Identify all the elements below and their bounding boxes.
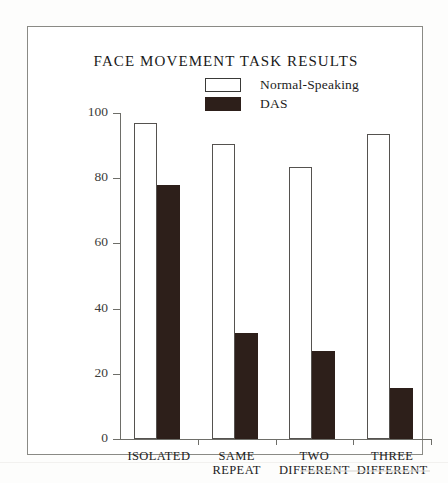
chart-title: FACE MOVEMENT TASK RESULTS	[28, 53, 424, 70]
y-axis-line	[120, 113, 121, 440]
bar-normal-speaking-4	[367, 134, 390, 439]
x-label-2: SAMEREPEAT	[198, 449, 276, 477]
x-label-4: THREEDIFFERENT	[353, 449, 431, 477]
bar-normal-speaking-2	[212, 144, 235, 439]
legend-item-das: DAS	[205, 95, 415, 112]
y-tick-label-60: 60	[95, 234, 109, 250]
y-tick-40: 40	[113, 309, 120, 310]
scanned-page: FACE MOVEMENT TASK RESULTS Normal-Speaki…	[0, 0, 448, 483]
x-label-line1: THREE	[371, 449, 413, 463]
y-tick-label-40: 40	[95, 300, 109, 316]
chart-legend: Normal-Speaking DAS	[205, 76, 415, 114]
legend-swatch-normal-speaking	[205, 78, 241, 92]
bar-das-2	[235, 333, 258, 439]
x-label-1: ISOLATED	[120, 449, 198, 463]
legend-item-normal-speaking: Normal-Speaking	[205, 76, 415, 93]
y-tick-label-100: 100	[88, 104, 108, 120]
x-label-3: TWODIFFERENT	[276, 449, 354, 477]
legend-swatch-das	[205, 97, 241, 111]
scan-artifact	[300, 470, 430, 472]
bar-das-1	[157, 185, 180, 439]
plot-area: MEAN PERCENT CORRECT RESPONSE 0204060801…	[120, 113, 431, 439]
x-label-line1: SAME	[218, 449, 254, 463]
y-tick-label-0: 0	[101, 430, 108, 446]
bar-das-3	[312, 351, 335, 439]
x-tick-1	[198, 439, 199, 445]
x-tick-2	[276, 439, 277, 445]
y-tick-0: 0	[113, 439, 120, 440]
y-tick-100: 100	[113, 113, 120, 114]
legend-label-normal-speaking: Normal-Speaking	[260, 77, 359, 93]
bar-normal-speaking-1	[134, 123, 157, 439]
bar-das-4	[390, 388, 413, 439]
scan-artifact	[0, 462, 448, 463]
y-tick-20: 20	[113, 374, 120, 375]
x-label-line1: TWO	[300, 449, 330, 463]
y-tick-label-20: 20	[95, 365, 109, 381]
x-tick-3	[353, 439, 354, 445]
y-tick-80: 80	[113, 178, 120, 179]
x-tick-4	[431, 439, 432, 445]
bar-normal-speaking-3	[289, 167, 312, 439]
y-tick-label-80: 80	[95, 169, 109, 185]
figure-frame: FACE MOVEMENT TASK RESULTS Normal-Speaki…	[27, 26, 423, 455]
legend-label-das: DAS	[260, 96, 288, 112]
x-label-line2: REPEAT	[198, 463, 276, 477]
x-label-line1: ISOLATED	[127, 449, 190, 463]
y-tick-60: 60	[113, 243, 120, 244]
